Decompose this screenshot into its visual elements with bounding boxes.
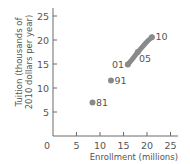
- x-tick-label: 20: [141, 140, 153, 151]
- y-tick-labels: 5 10 15 20 25: [37, 11, 49, 118]
- y-axis-title-line1: Tuition (thousands of: [14, 16, 24, 107]
- point-label-91: 91: [115, 75, 127, 86]
- chart: 0 5 10 15 20 25 Enrollment (millions) 5 …: [0, 0, 190, 164]
- y-axis-title-line2: 2010 dollars per year): [24, 15, 34, 110]
- x-tick-label: 25: [164, 140, 176, 151]
- x-tick-labels: 0 5 10 15 20 25: [44, 140, 177, 151]
- data-point-10: [149, 34, 155, 40]
- y-axis-title: Tuition (thousands of 2010 dollars per y…: [14, 15, 34, 110]
- x-tick-label: 15: [117, 140, 129, 151]
- data-point-81: [90, 100, 96, 106]
- y-tick-label: 15: [37, 59, 49, 70]
- y-tick-label: 10: [37, 83, 49, 94]
- x-tick-label: 5: [73, 140, 79, 151]
- y-tick-label: 20: [37, 35, 49, 46]
- y-tick-label: 25: [37, 11, 49, 22]
- data-point-01: [125, 62, 131, 68]
- y-ticks: [53, 16, 57, 112]
- x-tick-label: 10: [94, 140, 106, 151]
- point-label-81: 81: [96, 97, 108, 108]
- x-axis-title: Enrollment (millions): [90, 152, 178, 162]
- data-point-91: [108, 78, 114, 84]
- point-label-10: 10: [156, 31, 168, 42]
- point-label-01: 01: [112, 59, 124, 70]
- point-label-05: 05: [139, 53, 151, 64]
- x-ticks: [77, 132, 171, 136]
- x-tick-label: 0: [44, 140, 50, 151]
- y-tick-label: 5: [43, 107, 49, 118]
